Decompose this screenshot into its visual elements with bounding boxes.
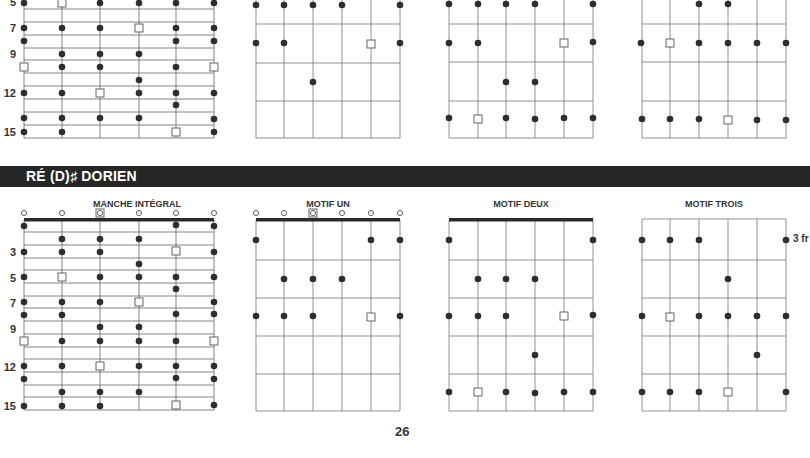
fretboard-diagrams — [0, 0, 810, 458]
motif-trois-grid — [642, 219, 786, 411]
top-motif-deux — [449, 0, 593, 138]
nut — [24, 218, 214, 222]
manche-integral-grid — [24, 220, 214, 410]
motif-deux-grid — [449, 220, 593, 411]
motif-un-grid — [256, 220, 400, 411]
top-motif-trois — [642, 0, 786, 138]
top-manche-integral-notes — [20, 0, 218, 136]
top-motif-un-notes — [253, 2, 404, 86]
top-motif-un — [256, 0, 400, 138]
motif-un-notes — [253, 209, 404, 321]
top-manche-integral — [24, 0, 214, 138]
manche-integral-notes — [20, 209, 218, 409]
nut — [449, 218, 593, 222]
motif-trois-notes — [639, 237, 790, 396]
motif-deux-notes — [446, 237, 597, 397]
nut — [256, 218, 400, 222]
